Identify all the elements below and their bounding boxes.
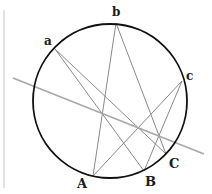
cross-line-b-C xyxy=(116,23,166,154)
point-label-c: c xyxy=(186,69,193,83)
point-label-b: b xyxy=(112,5,120,19)
point-labels-group: abcABC xyxy=(44,5,193,191)
point-label-a: a xyxy=(44,34,52,48)
point-label-C: C xyxy=(169,156,179,171)
cross-line-b-A xyxy=(93,23,116,176)
point-label-A: A xyxy=(76,176,88,191)
point-label-B: B xyxy=(145,174,156,189)
pascal-theorem-diagram: abcABC xyxy=(0,0,212,194)
cross-line-a-B xyxy=(55,49,144,171)
